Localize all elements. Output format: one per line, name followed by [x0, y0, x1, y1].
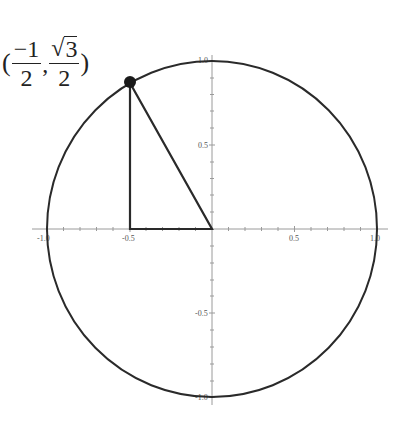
- x-denominator: 2: [20, 64, 32, 90]
- radical-sign: √: [51, 36, 64, 60]
- sqrt-symbol: √ 3: [51, 36, 77, 61]
- comma-separator: ,: [42, 51, 48, 78]
- x-tick-label: -0.5: [122, 234, 135, 243]
- point-coordinate-label: ( −1 2 , √ 3 2 ): [2, 36, 89, 90]
- x-fraction: −1 2: [12, 37, 42, 90]
- reference-triangle: [130, 83, 212, 229]
- point-marker: [124, 76, 136, 88]
- open-paren: (: [2, 48, 11, 78]
- y-tick-label: 0.5: [198, 141, 208, 150]
- x-tick-label: 0.5: [289, 234, 299, 243]
- x-tick-label: 1.0: [370, 234, 380, 243]
- y-fraction: √ 3 2: [49, 36, 79, 90]
- y-tick-label: -0.5: [195, 309, 208, 318]
- close-paren: ): [80, 48, 89, 78]
- y-denominator: 2: [58, 64, 70, 90]
- x-numerator: −1: [12, 37, 42, 64]
- y-numerator: √ 3: [49, 36, 79, 64]
- radicand: 3: [64, 36, 77, 61]
